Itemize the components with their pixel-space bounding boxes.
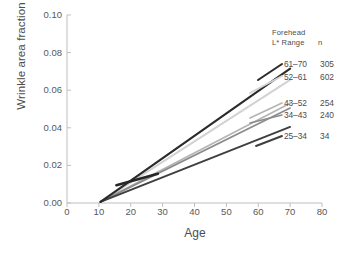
data-line-25-34 [100, 127, 290, 202]
legend-swatch-25-34 [256, 136, 282, 146]
legend-range-label: 43–52 [284, 98, 316, 108]
legend-title-line2: L* Range [272, 38, 304, 47]
data-line-34-43 [100, 108, 290, 202]
legend-title-n: n [318, 38, 322, 47]
legend-range-label: 52–61 [284, 72, 316, 82]
legend-swatch-52-61 [250, 76, 282, 93]
wrinkle-area-fraction-chart: Wrinkle area fraction Age 0.10 0.08 0.06… [0, 0, 344, 254]
legend-range-label: 34–43 [284, 110, 316, 120]
legend-range-label: 25–34 [284, 131, 316, 141]
data-line-52-61 [100, 80, 290, 202]
legend-range-label: 61–70 [284, 59, 316, 69]
legend-n-value: 305 [320, 59, 342, 69]
legend-n-value: 254 [320, 98, 342, 108]
legend-n-value: 602 [320, 72, 342, 82]
legend-n-value: 240 [320, 110, 342, 120]
legend-title-line1: Forehead [272, 28, 305, 37]
legend-n-value: 34 [320, 131, 342, 141]
